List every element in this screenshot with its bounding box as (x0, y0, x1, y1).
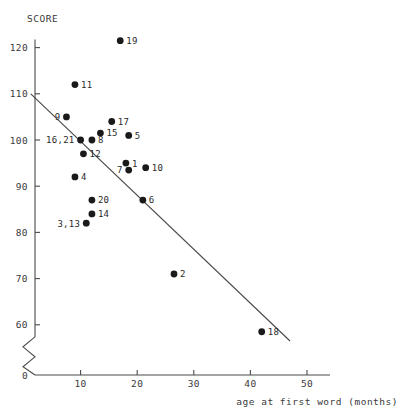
data-point[interactable] (63, 114, 70, 121)
x-tick-label: 10 (74, 378, 86, 389)
data-point-label: 14 (98, 209, 109, 219)
x-tick-label: 40 (244, 378, 256, 389)
data-point[interactable] (77, 137, 84, 144)
data-point-label: 15 (106, 128, 117, 138)
data-point[interactable] (258, 328, 265, 335)
data-point[interactable] (89, 137, 96, 144)
data-point[interactable] (125, 167, 132, 174)
data-point-label: 20 (98, 195, 109, 205)
data-point[interactable] (80, 150, 87, 157)
data-point-label: 9 (55, 112, 61, 122)
y-tick-label-zero: 0 (22, 370, 28, 381)
data-point[interactable] (89, 211, 96, 218)
x-tick-label: 50 (301, 378, 313, 389)
data-point[interactable] (139, 197, 146, 204)
data-point-label: 11 (81, 80, 92, 90)
data-point-label: 10 (152, 163, 163, 173)
data-point[interactable] (125, 132, 132, 139)
data-point[interactable] (171, 271, 178, 278)
data-point-label: 4 (81, 172, 87, 182)
data-point-label: 7 (117, 165, 123, 175)
y-tick-label: 120 (10, 42, 28, 53)
data-point-label: 18 (268, 327, 279, 337)
data-point[interactable] (89, 197, 96, 204)
data-point[interactable] (122, 160, 129, 167)
x-tick-label: 20 (131, 378, 143, 389)
data-point[interactable] (117, 37, 124, 44)
y-axis-title: SCORE (27, 13, 58, 24)
data-point-label: 2 (180, 269, 186, 279)
data-point-label: 17 (118, 117, 129, 127)
data-point[interactable] (72, 81, 79, 88)
data-point-label: 16,21 (46, 135, 75, 145)
data-point-label: 3,13 (57, 219, 80, 229)
data-point-label: 6 (149, 195, 155, 205)
plot-canvas: 6070809010011012001020304050SCOREage at … (0, 0, 401, 420)
y-tick-label: 100 (10, 135, 28, 146)
data-point[interactable] (83, 220, 90, 227)
data-point-label: 8 (98, 135, 104, 145)
y-tick-label: 110 (10, 88, 28, 99)
data-point[interactable] (108, 118, 115, 125)
data-point-label: 19 (126, 36, 137, 46)
y-tick-label: 60 (16, 319, 28, 330)
data-point-label: 12 (89, 149, 100, 159)
scatter-plot-figure: 6070809010011012001020304050SCOREage at … (0, 0, 401, 420)
x-tick-label: 30 (188, 378, 200, 389)
y-tick-label: 70 (16, 273, 28, 284)
x-axis-title: age at first word (months) (236, 396, 398, 407)
data-point[interactable] (72, 174, 79, 181)
data-point-label: 5 (135, 131, 141, 141)
data-point[interactable] (142, 164, 149, 171)
y-tick-label: 80 (16, 227, 28, 238)
data-point-label: 1 (132, 159, 138, 169)
regression-line (31, 94, 290, 341)
y-tick-label: 90 (16, 181, 28, 192)
